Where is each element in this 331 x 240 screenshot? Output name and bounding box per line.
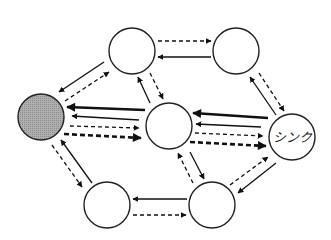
- node-bottom-left: [84, 182, 130, 228]
- edge-center-to-source-solid: [72, 116, 139, 120]
- edge-sink-to-top-right-solid: [250, 77, 276, 115]
- edge-top-left-to-center-dashed: [150, 73, 163, 99]
- edge-center-to-top-left-solid: [138, 77, 150, 103]
- edge-center-to-source-solid: [67, 107, 145, 110]
- edge-center-to-bottom-right-solid: [190, 152, 204, 179]
- node-label: シンク: [273, 130, 313, 145]
- edge-sink-to-center-solid: [193, 113, 268, 118]
- node-circle: [18, 94, 64, 140]
- node-circle: [213, 28, 259, 74]
- edge-center-to-sink-dashed: [190, 142, 266, 146]
- edge-top-left-to-source-solid: [59, 62, 104, 92]
- node-circle: [84, 182, 130, 228]
- node-circle: [109, 28, 155, 74]
- edge-bottom-right-to-center-dashed: [178, 153, 193, 183]
- node-top-left: [109, 28, 155, 74]
- edge-source-to-bottom-left-dashed: [52, 145, 82, 187]
- edge-top-right-to-sink-dashed: [259, 73, 284, 111]
- edge-bottom-right-to-sink-dashed: [230, 157, 268, 185]
- node-circle: [146, 103, 192, 149]
- node-sink: シンク: [269, 114, 315, 160]
- flow-network-diagram: シンク: [0, 0, 331, 240]
- edge-source-to-top-left-dashed: [65, 72, 109, 101]
- node-source: [18, 94, 64, 140]
- edge-sink-to-center-solid: [196, 124, 261, 127]
- edge-sink-to-bottom-right-solid: [238, 163, 276, 193]
- node-top-right: [213, 28, 259, 74]
- edge-center-to-sink-dashed: [195, 133, 263, 136]
- node-circle: [189, 182, 235, 228]
- node-center: [146, 103, 192, 149]
- node-bottom-right: [189, 182, 235, 228]
- edge-bottom-left-to-source-solid: [61, 140, 92, 183]
- nodes-layer: シンク: [18, 28, 315, 228]
- edge-source-to-center-dashed: [64, 134, 141, 138]
- edge-source-to-center-dashed: [70, 126, 139, 128]
